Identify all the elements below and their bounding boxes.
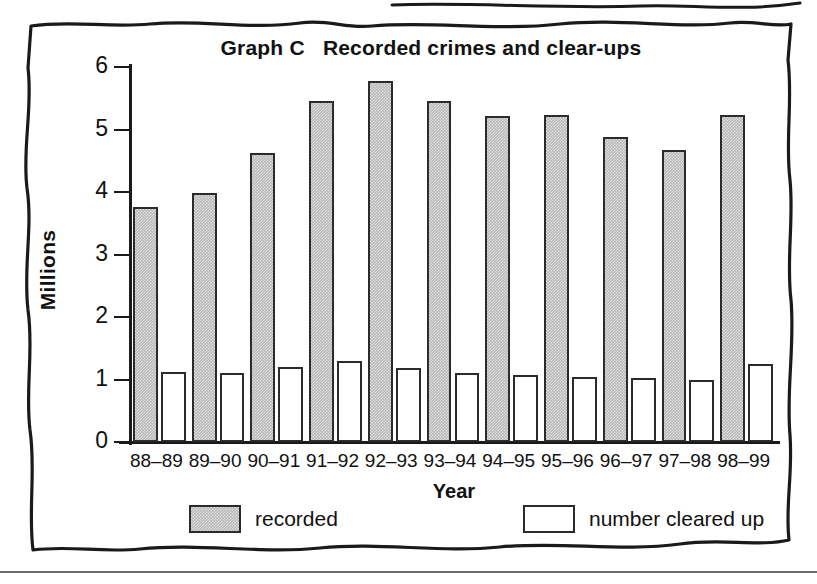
legend-item-cleared: number cleared up [523,505,764,533]
x-axis-tick-label: 88–89 [127,450,186,472]
bar-cleared [455,373,480,442]
x-axis-tick-label: 95–96 [538,450,597,472]
x-axis-tick-label: 92–93 [362,450,421,472]
page-bottom-rule [0,571,817,573]
y-axis-tick [114,379,131,381]
bar-cleared [337,361,362,442]
chart-canvas: Graph C Recorded crimes and clear-ups Mi… [0,0,817,584]
y-axis-tick-label: 2 [68,304,108,327]
bar-cleared [278,367,303,442]
y-axis-tick-label: 1 [68,367,108,390]
bar-cleared [513,375,538,443]
x-axis-tick-label: 89–90 [186,450,245,472]
legend-label-recorded: recorded [255,507,338,531]
y-axis-tick-label-wrap: 2 [62,304,108,328]
y-axis-tick-label: 0 [68,429,108,452]
y-axis-title: Millions [36,200,60,340]
bar-recorded [427,101,452,442]
x-axis-tick-label: 90–91 [244,450,303,472]
bar-cleared [161,372,186,442]
y-axis-tick-label-wrap: 4 [62,179,108,203]
x-axis-title: Year [131,480,777,503]
chart-title: Graph C Recorded crimes and clear-ups [131,36,731,60]
y-axis-tick-label-wrap: 0 [62,429,108,453]
chart-title-prefix: Graph C [221,36,305,59]
bar-recorded [603,137,628,442]
y-axis-tick [114,191,131,193]
y-axis-tick [114,441,131,443]
bar-recorded [309,101,334,442]
bar-cleared [396,368,421,442]
chart-legend: recorded number cleared up [131,505,791,545]
y-axis-tick-label-wrap: 3 [62,242,108,266]
legend-label-cleared: number cleared up [589,507,764,531]
bar-recorded [250,153,275,442]
chart-page: Graph C Recorded crimes and clear-ups Mi… [0,0,817,584]
y-axis-tick-label-wrap: 6 [62,54,108,78]
bar-recorded [133,207,158,442]
y-axis-tick-label: 5 [68,117,108,140]
bar-recorded [720,115,745,442]
bar-cleared [631,378,656,442]
x-axis-tick-label: 91–92 [303,450,362,472]
y-axis-tick-label-wrap: 1 [62,367,108,391]
y-axis-tick-label-wrap: 5 [62,117,108,141]
x-axis-tick-label: 96–97 [597,450,656,472]
chart-title-rest: Recorded crimes and clear-ups [323,36,642,59]
bar-cleared [220,373,245,442]
bar-recorded [544,115,569,442]
bar-cleared [689,380,714,442]
bar-recorded [368,81,393,442]
y-axis-tick [114,316,131,318]
bar-cleared [572,377,597,442]
y-axis-tick-label: 6 [68,54,108,77]
y-axis-tick [114,129,131,131]
y-axis-tick [114,254,131,256]
y-axis-tick-label: 3 [68,242,108,265]
legend-swatch-cleared-icon [523,505,575,533]
bar-cleared [748,364,773,442]
x-axis-tick-label: 93–94 [421,450,480,472]
y-axis-tick-label: 4 [68,179,108,202]
bar-recorded [192,193,217,442]
y-axis-tick [114,66,131,68]
x-axis-tick-label: 97–98 [656,450,715,472]
bar-recorded [485,116,510,442]
x-axis-tick-label: 94–95 [479,450,538,472]
legend-item-recorded: recorded [189,505,338,533]
legend-swatch-recorded-icon [189,505,241,533]
plot-area [131,67,777,442]
x-axis-tick-label: 98–99 [714,450,773,472]
bar-recorded [662,150,687,442]
